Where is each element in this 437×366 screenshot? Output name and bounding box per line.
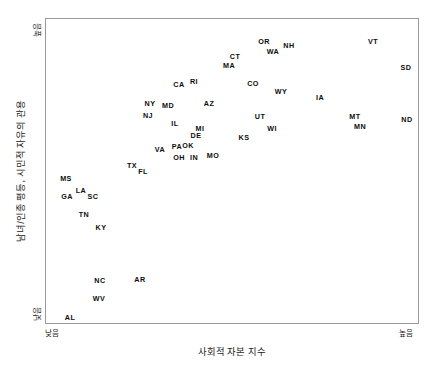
data-point-label: SC: [88, 193, 99, 200]
data-point-label: LA: [76, 187, 86, 194]
data-point-label: MT: [349, 113, 360, 120]
data-point-label: SD: [401, 64, 412, 71]
x-axis-title: 사회적 자본 지수: [45, 344, 419, 358]
data-point-label: DE: [191, 132, 202, 139]
data-point-label: CT: [230, 53, 240, 60]
data-point-label: VA: [155, 146, 165, 153]
data-point-label: TN: [79, 211, 89, 218]
data-point-label: CO: [247, 80, 259, 87]
data-point-label: AZ: [204, 100, 214, 107]
data-point-label: FL: [138, 168, 148, 175]
data-point-label: KY: [96, 224, 107, 231]
y-axis-title-text: 남녀/인종 평등, 시민적 자유의 관용: [13, 100, 27, 242]
data-point-label: KS: [239, 134, 250, 141]
data-point-label: NJ: [143, 112, 153, 119]
data-point-label: OR: [258, 38, 270, 45]
data-point-label: IN: [190, 154, 198, 161]
data-point-label: NY: [145, 100, 156, 107]
data-point-label: WV: [93, 295, 105, 302]
data-point-label: WY: [275, 88, 287, 95]
y-axis-tick-low-text: 낮음: [31, 306, 42, 320]
data-point-label: GA: [61, 193, 73, 200]
data-point-label: MD: [162, 102, 174, 109]
y-axis-tick-high-text: 높음: [31, 22, 42, 36]
x-axis-tick-high: 높음: [399, 327, 413, 338]
y-axis-title: 남녀/인종 평등, 시민적 자유의 관용: [12, 18, 28, 324]
y-axis-tick-high: 높음: [29, 18, 43, 40]
data-point-label: MO: [207, 152, 219, 159]
data-point-label: IL: [171, 120, 178, 127]
data-point-label: MS: [60, 175, 72, 182]
data-point-label: MN: [354, 123, 366, 130]
data-point-label: AL: [65, 314, 75, 321]
data-point-label: WI: [267, 125, 277, 132]
data-point-label: PA: [172, 143, 182, 150]
data-point-label: MA: [223, 62, 235, 69]
data-point-label: OK: [182, 142, 194, 149]
data-point-label: UT: [255, 113, 265, 120]
data-point-label: CA: [173, 81, 184, 88]
x-axis-tick-low: 낮음: [45, 327, 59, 338]
data-point-label: IA: [316, 94, 324, 101]
data-point-label: ND: [401, 116, 412, 123]
data-point-label: AR: [134, 276, 145, 283]
data-point-label: WA: [267, 48, 279, 55]
data-point-label: TX: [127, 162, 137, 169]
data-point-label: NC: [94, 277, 105, 284]
data-point-label: NH: [283, 42, 294, 49]
data-point-label: OH: [173, 154, 185, 161]
data-point-label: VT: [368, 38, 378, 45]
scatter-plot-figure: 남녀/인종 평등, 시민적 자유의 관용 높음 낮음 낮음 높음 사회적 자본 …: [0, 0, 437, 366]
data-point-label: RI: [190, 78, 198, 85]
y-axis-tick-low: 낮음: [29, 302, 43, 324]
